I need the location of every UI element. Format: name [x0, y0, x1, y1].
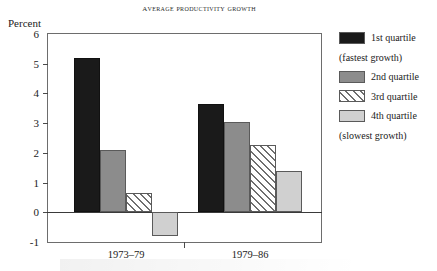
- y-axis-tick: [43, 64, 48, 65]
- x-axis-tick: [184, 242, 185, 248]
- legend-note-slowest: (slowest growth): [339, 126, 435, 146]
- x-axis-category-label: 1973–79: [86, 249, 166, 260]
- plot-area: 6543210-1: [47, 33, 322, 243]
- y-axis-tick-label: 2: [34, 147, 40, 159]
- y-axis-tick: [43, 153, 48, 154]
- bar-1973-79-q4: [152, 212, 178, 236]
- y-axis-tick: [43, 123, 48, 124]
- y-axis-tick-label: 0: [34, 206, 40, 218]
- scan-shadow: [60, 259, 360, 271]
- bar-1979-86-q1: [198, 104, 224, 212]
- legend-label-2nd-quartile: 2nd quartile: [371, 71, 419, 82]
- y-axis-tick-label: 4: [34, 87, 40, 99]
- y-axis-tick-label: 6: [34, 28, 40, 40]
- chart-figure: Average productivity growth Percent 6543…: [0, 0, 437, 271]
- legend-swatch-2nd-quartile: [339, 71, 365, 83]
- legend-note-fastest: (fastest growth): [339, 48, 435, 68]
- legend-item-2nd-quartile: 2nd quartile: [339, 67, 435, 87]
- legend-swatch-3rd-quartile: [339, 90, 365, 102]
- bar-1973-79-q1: [74, 58, 100, 213]
- y-axis-tick-label: 5: [34, 58, 40, 70]
- y-axis-tick-label: 3: [34, 117, 40, 129]
- bar-1973-79-q3: [126, 193, 152, 212]
- y-axis-tick: [43, 183, 48, 184]
- legend-label-3rd-quartile: 3rd quartile: [371, 91, 417, 102]
- legend-label-1st-quartile: 1st quartile: [371, 32, 416, 43]
- x-axis-category-label: 1979–86: [210, 249, 290, 260]
- y-axis-tick-label: -1: [30, 236, 39, 248]
- y-axis-tick: [43, 93, 48, 94]
- chart-title: Average productivity growth: [104, 2, 294, 13]
- bar-1973-79-q2: [100, 150, 126, 212]
- legend-item-4th-quartile: 4th quartile: [339, 106, 435, 126]
- y-axis-tick-label: 1: [34, 177, 40, 189]
- legend-item-1st-quartile: 1st quartile: [339, 28, 435, 48]
- bar-1979-86-q3: [250, 145, 276, 212]
- legend-label-4th-quartile: 4th quartile: [371, 110, 417, 121]
- legend-swatch-4th-quartile: [339, 110, 365, 122]
- legend-item-3rd-quartile: 3rd quartile: [339, 87, 435, 107]
- bar-1979-86-q2: [224, 122, 250, 213]
- legend-swatch-1st-quartile: [339, 32, 365, 44]
- zero-baseline: [47, 212, 322, 213]
- bar-1979-86-q4: [276, 171, 302, 213]
- chart-legend: 1st quartile (fastest growth) 2nd quarti…: [339, 28, 435, 145]
